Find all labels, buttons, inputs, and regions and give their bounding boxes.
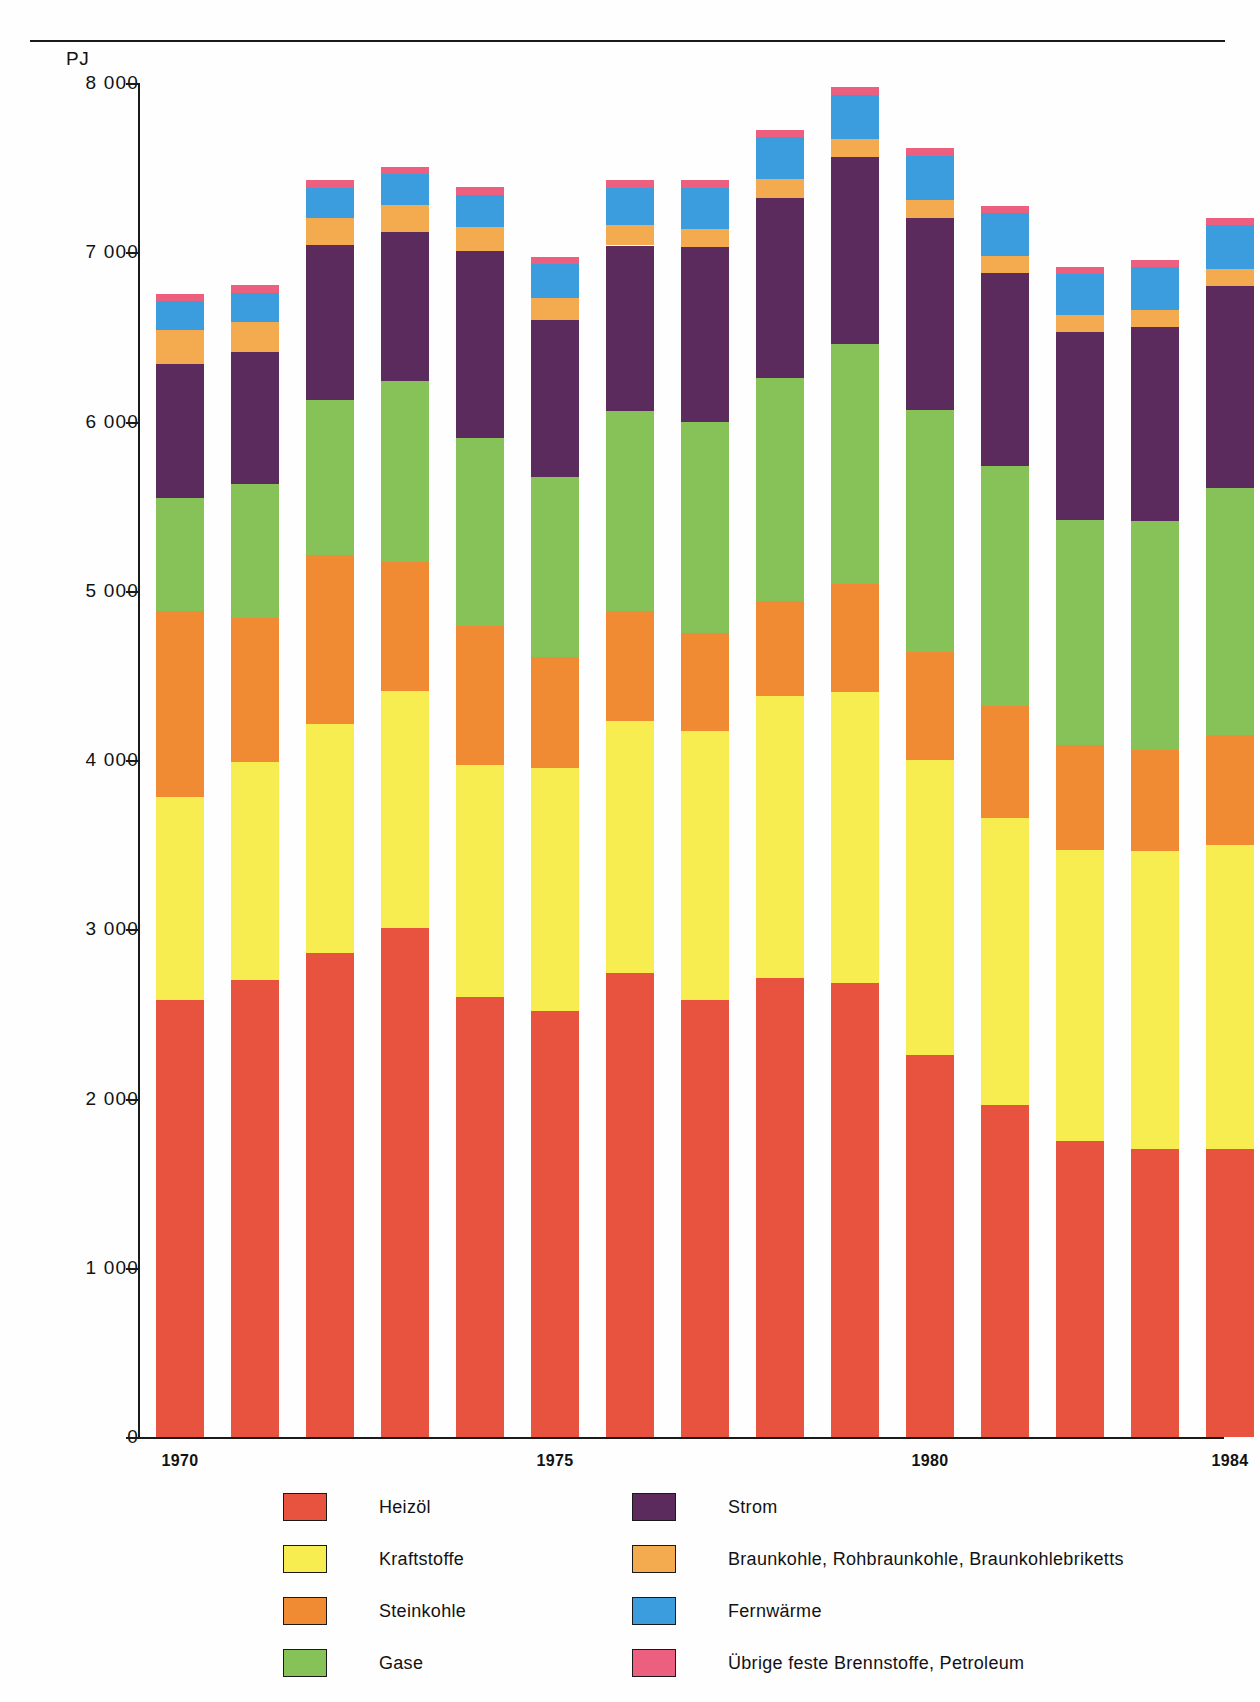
legend-item[interactable]: Gase <box>283 1648 466 1678</box>
bar-segment <box>1056 1141 1104 1437</box>
bar-segment <box>231 484 279 618</box>
bar-segment <box>1131 327 1179 522</box>
bar-segment <box>456 251 504 439</box>
bar-segment <box>1206 218 1254 226</box>
bar-segment <box>456 227 504 251</box>
bar-segment <box>981 213 1029 255</box>
legend-item[interactable]: Heizöl <box>283 1492 466 1522</box>
bar-1983 <box>1131 260 1179 1437</box>
bar-segment <box>456 438 504 626</box>
bar-segment <box>831 157 879 343</box>
bar-segment <box>381 928 429 1437</box>
bar-segment <box>1206 735 1254 845</box>
bar-segment <box>156 294 204 302</box>
bar-segment <box>306 180 354 188</box>
bar-segment <box>1131 521 1179 749</box>
legend-item[interactable]: Steinkohle <box>283 1596 466 1626</box>
legend-label: Kraftstoffe <box>379 1549 464 1570</box>
bar-segment <box>381 205 429 232</box>
bar-segment <box>456 195 504 227</box>
legend-swatch-icon <box>283 1597 327 1625</box>
bar-1971 <box>231 285 279 1437</box>
bar-segment <box>456 997 504 1437</box>
bar-segment <box>981 466 1029 706</box>
bar-1980 <box>906 148 954 1437</box>
bar-segment <box>156 330 204 364</box>
legend-swatch-icon <box>632 1493 676 1521</box>
bar-segment <box>681 229 729 248</box>
bar-segment <box>231 322 279 352</box>
bar-segment <box>1056 315 1104 332</box>
bar-1974 <box>456 187 504 1437</box>
bar-segment <box>831 344 879 584</box>
bar-segment <box>831 87 879 95</box>
bar-segment <box>306 953 354 1437</box>
bar-segment <box>756 978 804 1437</box>
legend-column-right: StromBraunkohle, Rohbraunkohle, Braunkoh… <box>632 1492 1124 1700</box>
bar-segment <box>531 298 579 320</box>
bar-segment <box>156 797 204 1000</box>
bar-segment <box>306 218 354 245</box>
bar-segment <box>681 633 729 731</box>
bar-segment <box>1131 1149 1179 1437</box>
bar-1984 <box>1206 218 1254 1437</box>
bar-segment <box>756 179 804 198</box>
bar-1982 <box>1056 267 1104 1437</box>
bar-segment <box>906 652 954 760</box>
legend-item[interactable]: Strom <box>632 1492 1124 1522</box>
bar-segment <box>381 691 429 928</box>
bar-segment <box>306 724 354 952</box>
bar-segment <box>1056 745 1104 850</box>
bar-segment <box>531 264 579 298</box>
bar-segment <box>981 273 1029 466</box>
bar-segment <box>306 400 354 556</box>
bar-segment <box>306 245 354 399</box>
bar-segment <box>1206 225 1254 269</box>
legend-label: Heizöl <box>379 1497 431 1518</box>
bar-segment <box>831 983 879 1437</box>
bar-segment <box>1131 750 1179 852</box>
bar-segment <box>156 1000 204 1437</box>
bar-segment <box>981 256 1029 273</box>
legend-swatch-icon <box>283 1493 327 1521</box>
bar-segment <box>531 477 579 656</box>
bar-segment <box>1131 267 1179 309</box>
chart-root: PJ 8 0007 0006 0005 0004 0003 0002 0001 … <box>0 0 1260 1702</box>
legend-item[interactable]: Fernwärme <box>632 1596 1124 1626</box>
bar-segment <box>906 760 954 1054</box>
legend-label: Strom <box>728 1497 778 1518</box>
bar-segment <box>606 180 654 188</box>
bar-1979 <box>831 87 879 1437</box>
bar-segment <box>1056 332 1104 520</box>
bar-1975 <box>531 256 579 1437</box>
bar-segment <box>831 584 879 692</box>
bar-1978 <box>756 130 804 1437</box>
bar-segment <box>456 626 504 765</box>
legend-label: Übrige feste Brennstoffe, Petroleum <box>728 1653 1024 1674</box>
legend-swatch-icon <box>283 1545 327 1573</box>
bar-1973 <box>381 167 429 1437</box>
bar-segment <box>231 352 279 484</box>
legend-swatch-icon <box>632 1649 676 1677</box>
bar-segment <box>681 1000 729 1437</box>
bar-segment <box>906 410 954 652</box>
bar-segment <box>381 167 429 175</box>
legend-item[interactable]: Kraftstoffe <box>283 1544 466 1574</box>
bar-segment <box>606 611 654 721</box>
bar-segment <box>231 980 279 1437</box>
bar-segment <box>156 611 204 797</box>
bar-1970 <box>156 294 204 1437</box>
legend-item[interactable]: Braunkohle, Rohbraunkohle, Braunkohlebri… <box>632 1544 1124 1574</box>
bar-segment <box>381 562 429 691</box>
bar-segment <box>1056 274 1104 315</box>
bar-segment <box>456 765 504 997</box>
bar-segment <box>681 188 729 229</box>
bar-segment <box>606 188 654 225</box>
legend-label: Steinkohle <box>379 1601 466 1622</box>
bar-segment <box>606 721 654 973</box>
bar-segment <box>906 200 954 219</box>
bar-segment <box>231 618 279 762</box>
legend-item[interactable]: Übrige feste Brennstoffe, Petroleum <box>632 1648 1124 1678</box>
bar-segment <box>606 246 654 412</box>
bar-segment <box>306 188 354 218</box>
